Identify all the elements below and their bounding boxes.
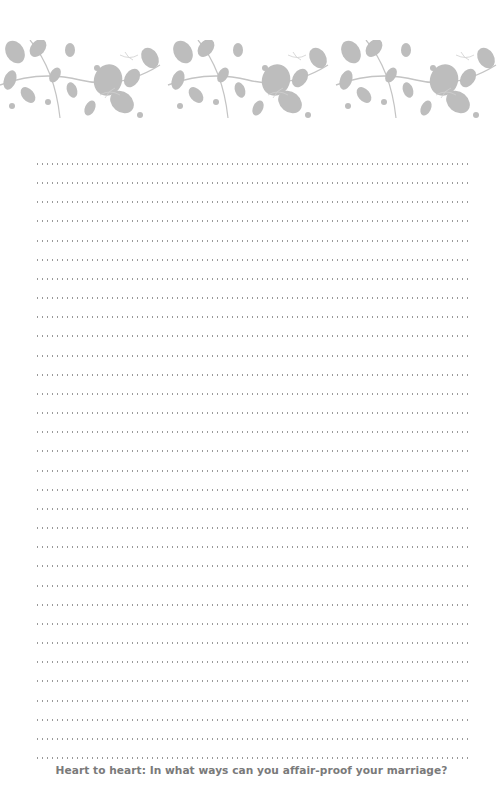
- floral-vine-icon: [0, 40, 503, 118]
- writing-line[interactable]: [35, 604, 471, 606]
- writing-line[interactable]: [35, 489, 471, 491]
- writing-line[interactable]: [35, 642, 471, 644]
- writing-line[interactable]: [35, 508, 471, 510]
- writing-line[interactable]: [35, 374, 471, 376]
- writing-line[interactable]: [35, 220, 471, 222]
- writing-line[interactable]: [35, 546, 471, 548]
- writing-line[interactable]: [35, 431, 471, 433]
- writing-line[interactable]: [35, 335, 471, 337]
- writing-line[interactable]: [35, 527, 471, 529]
- journal-prompt: Heart to heart: In what ways can you aff…: [0, 764, 503, 776]
- writing-line[interactable]: [35, 240, 471, 242]
- writing-line[interactable]: [35, 565, 471, 567]
- writing-line[interactable]: [35, 661, 471, 663]
- floral-banner: [0, 40, 503, 118]
- writing-line[interactable]: [35, 623, 471, 625]
- writing-line[interactable]: [35, 700, 471, 702]
- writing-line[interactable]: [35, 412, 471, 414]
- writing-line[interactable]: [35, 355, 471, 357]
- writing-line[interactable]: [35, 259, 471, 261]
- writing-line[interactable]: [35, 316, 471, 318]
- writing-line[interactable]: [35, 201, 471, 203]
- writing-line[interactable]: [35, 450, 471, 452]
- writing-line[interactable]: [35, 680, 471, 682]
- writing-line[interactable]: [35, 163, 471, 165]
- writing-line[interactable]: [35, 757, 471, 759]
- writing-line[interactable]: [35, 470, 471, 472]
- writing-line[interactable]: [35, 393, 471, 395]
- writing-line[interactable]: [35, 182, 471, 184]
- writing-line[interactable]: [35, 278, 471, 280]
- writing-line[interactable]: [35, 297, 471, 299]
- writing-line[interactable]: [35, 719, 471, 721]
- writing-line[interactable]: [35, 738, 471, 740]
- writing-line[interactable]: [35, 585, 471, 587]
